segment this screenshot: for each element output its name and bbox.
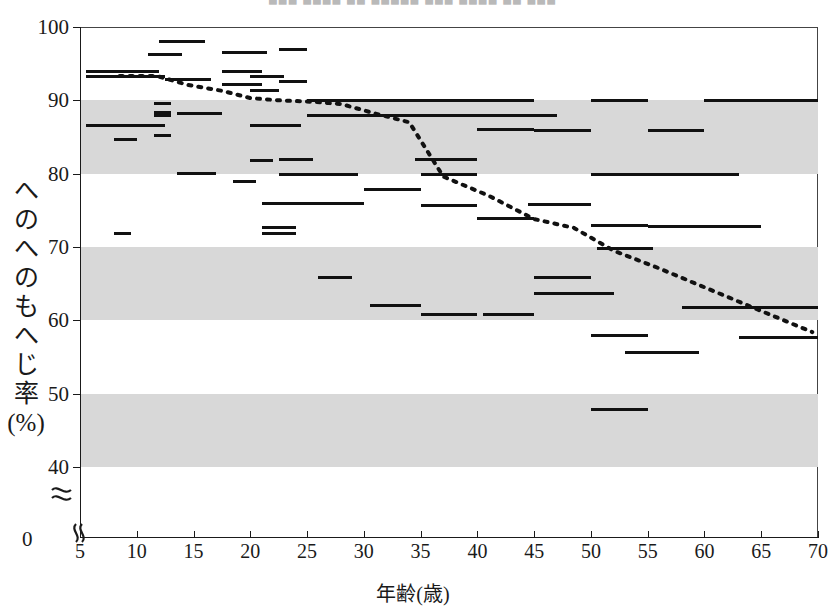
data-segment (528, 203, 590, 206)
data-segment (250, 124, 301, 127)
data-segment (262, 202, 307, 205)
x-tick-label: 45 (524, 541, 544, 561)
data-segment (114, 232, 131, 235)
data-segment (648, 225, 762, 228)
data-segment (307, 99, 364, 102)
x-tick-label: 35 (411, 541, 431, 561)
data-segment (307, 173, 358, 176)
data-segment (421, 204, 478, 207)
shaded-band (81, 394, 818, 467)
x-tick-label: 25 (297, 541, 317, 561)
data-segment (591, 334, 648, 337)
data-segment (534, 276, 591, 279)
data-segment (591, 408, 648, 411)
data-segment (421, 173, 478, 176)
cropped-caption-strip: ▀▀▀ ▀▀▀▀ ▀▀ ▀▀▀▀▀ ▀▀▀ ▀▀▀▀ ▀▀ ▀▀▀ (0, 0, 826, 10)
data-segment (477, 217, 534, 220)
data-segment (262, 226, 296, 229)
x-tick-label: 40 (467, 541, 487, 561)
data-segment (597, 247, 654, 250)
x-tick-label: 30 (354, 541, 374, 561)
y-axis-title-char: へ (6, 176, 46, 205)
data-segment (477, 114, 556, 117)
data-segment (86, 70, 160, 73)
axis-break-squiggle (46, 478, 90, 548)
x-tick-label: 10 (127, 541, 147, 561)
y-tick-label: 90 (48, 90, 69, 111)
y-axis-title-char: の (6, 263, 46, 292)
data-segment (534, 129, 591, 132)
data-segment (648, 129, 705, 132)
data-segment (250, 89, 278, 92)
y-axis-title-char: じ (6, 350, 46, 379)
data-segment (279, 173, 307, 176)
y-axis-title-char: 率 (6, 379, 46, 408)
y-tick-label: 50 (48, 383, 69, 404)
y-axis-tick: 90 (73, 100, 80, 101)
data-segment (222, 83, 262, 86)
y-axis-tick: 60 (73, 320, 80, 321)
y-tick-label: 100 (38, 17, 70, 38)
x-tick-label: 70 (808, 541, 828, 561)
x-tick-label: 55 (638, 541, 658, 561)
data-segment (250, 75, 284, 78)
data-segment (477, 99, 534, 102)
data-segment (318, 276, 352, 279)
y-axis-tick: 40 (73, 467, 80, 468)
data-segment (739, 336, 818, 339)
x-tick-label: 65 (751, 541, 771, 561)
y-axis-tick: 70 (73, 247, 80, 248)
data-segment (279, 158, 313, 161)
y-axis-title-char: へ (6, 234, 46, 263)
y-tick-label-zero: 0 (22, 527, 33, 552)
data-segment (279, 80, 307, 83)
plot-area: 405060708090100 510152025303540455055606… (80, 27, 818, 538)
data-segment (307, 114, 364, 117)
y-axis-tick: 100 (73, 27, 80, 28)
data-segment (154, 114, 171, 117)
data-segment (154, 102, 171, 105)
y-axis-title-char: (%) (6, 408, 46, 437)
data-segment (222, 51, 267, 54)
data-segment (154, 134, 171, 137)
data-segment (591, 224, 648, 227)
x-axis-tick: 45 (534, 531, 535, 538)
data-segment (233, 180, 256, 183)
data-segment (716, 306, 818, 309)
y-axis-title-char: も (6, 292, 46, 321)
data-segment (364, 114, 478, 117)
data-segment (546, 292, 614, 295)
x-axis-tick: 40 (477, 531, 478, 538)
data-segment (148, 75, 165, 78)
x-axis-tick: 20 (250, 531, 251, 538)
y-axis-tick: 50 (73, 394, 80, 395)
data-segment (421, 313, 478, 316)
data-segment (86, 124, 165, 127)
plot-border-top (80, 27, 818, 28)
x-axis-tick: 10 (137, 531, 138, 538)
data-segment (625, 351, 699, 354)
data-segment (591, 99, 648, 102)
x-axis-tick: 30 (364, 531, 365, 538)
data-segment (364, 99, 478, 102)
data-segment (591, 173, 648, 176)
x-axis-tick: 70 (818, 531, 819, 538)
data-segment (364, 188, 421, 191)
data-segment (477, 128, 534, 131)
data-segment (114, 138, 137, 141)
y-tick-label: 70 (48, 237, 69, 258)
y-tick-label: 60 (48, 310, 69, 331)
data-segment (370, 304, 421, 307)
shaded-band (81, 247, 818, 320)
data-segment (483, 313, 534, 316)
y-axis-tick: 80 (73, 174, 80, 175)
x-axis-tick: 55 (648, 531, 649, 538)
x-tick-label: 15 (184, 541, 204, 561)
y-axis-title: へのへのもへじ率(%) (6, 176, 46, 437)
x-axis-tick: 65 (761, 531, 762, 538)
x-axis-tick: 60 (704, 531, 705, 538)
x-axis-tick: 25 (307, 531, 308, 538)
x-axis-tick: 50 (591, 531, 592, 538)
data-segment (704, 99, 818, 102)
x-axis-tick: 15 (194, 531, 195, 538)
